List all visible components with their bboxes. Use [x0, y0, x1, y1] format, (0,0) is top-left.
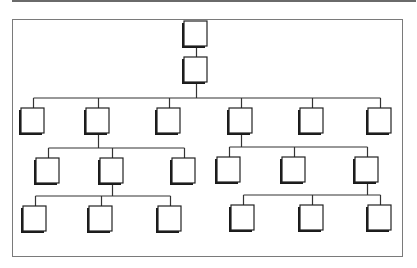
node-box: [231, 205, 254, 230]
node-box: [23, 206, 46, 231]
node-box: [184, 21, 207, 46]
org-node-n0: [182, 21, 207, 48]
node-box: [157, 108, 180, 133]
node-box: [36, 158, 59, 183]
org-node-b4: [215, 157, 240, 184]
org-node-b3: [170, 158, 195, 185]
org-node-a5: [298, 108, 323, 135]
org-node-b1: [34, 158, 59, 185]
org-node-a2: [84, 108, 109, 135]
org-node-a3: [155, 108, 180, 135]
org-node-c5: [298, 205, 323, 232]
node-box: [229, 108, 252, 133]
node-box: [100, 158, 123, 183]
org-node-c4: [229, 205, 254, 232]
node-box: [368, 108, 391, 133]
org-node-c3: [156, 206, 181, 233]
node-box: [217, 157, 240, 182]
node-box: [355, 157, 378, 182]
node-box: [86, 108, 109, 133]
org-node-c6: [366, 205, 391, 232]
org-node-c1: [21, 206, 46, 233]
org-node-b2: [98, 158, 123, 185]
node-box: [89, 206, 112, 231]
org-chart: [0, 0, 417, 268]
org-nodes: [19, 21, 391, 233]
org-node-a6: [366, 108, 391, 135]
node-box: [184, 57, 207, 82]
node-box: [300, 108, 323, 133]
node-box: [282, 157, 305, 182]
node-box: [21, 108, 44, 133]
org-node-c2: [87, 206, 112, 233]
org-node-a4: [227, 108, 252, 135]
org-node-b5: [280, 157, 305, 184]
org-node-n1: [182, 57, 207, 84]
org-node-b6: [353, 157, 378, 184]
node-box: [158, 206, 181, 231]
node-box: [368, 205, 391, 230]
node-box: [172, 158, 195, 183]
node-box: [300, 205, 323, 230]
org-node-a1: [19, 108, 44, 135]
